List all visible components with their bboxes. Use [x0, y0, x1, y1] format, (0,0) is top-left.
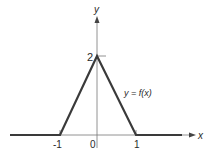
x-axis-label: x [197, 130, 204, 141]
curve-label: y = f(x) [123, 88, 152, 98]
y-axis-arrow-icon [95, 16, 100, 23]
x-tick-label-neg1: -1 [53, 139, 62, 150]
x-tick-label-1: 1 [134, 139, 140, 150]
y-tick-label-2: 2 [87, 51, 93, 63]
x-tick-label-0: 0 [90, 139, 96, 150]
function-curve [10, 56, 182, 135]
x-axis-arrow-icon [189, 133, 196, 138]
plot-canvas: y x 2 -1 0 1 y = f(x) [0, 0, 211, 155]
y-axis-label: y [93, 4, 100, 15]
